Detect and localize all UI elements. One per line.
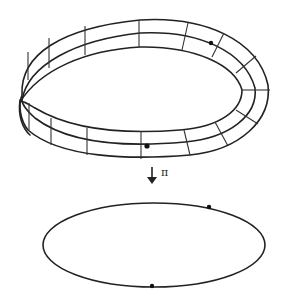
band-point-2 — [209, 41, 213, 45]
circle-point-1 — [207, 205, 211, 209]
band-outer-edge — [20, 20, 268, 158]
diagram-canvas — [0, 0, 287, 302]
projection-arrow — [147, 167, 157, 184]
band-centerline — [22, 33, 255, 144]
projection-map-label: π — [161, 166, 168, 179]
mobius-band — [19, 20, 270, 159]
circle-point-2 — [150, 284, 154, 288]
band-point-1 — [144, 143, 149, 148]
base-circle — [43, 203, 265, 288]
band-ribs — [28, 20, 270, 159]
